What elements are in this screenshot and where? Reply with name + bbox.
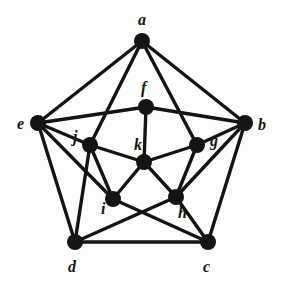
edge-g-k <box>144 145 197 162</box>
edge-a-b <box>142 41 245 123</box>
vertex-b[interactable] <box>237 115 253 131</box>
vertex-d[interactable] <box>67 234 83 250</box>
edge-g-h <box>176 145 197 197</box>
vertex-label-i: i <box>101 201 105 217</box>
edge-a-g <box>142 41 197 145</box>
vertex-label-c: c <box>203 259 210 275</box>
vertex-j[interactable] <box>82 137 98 153</box>
vertex-e[interactable] <box>30 115 46 131</box>
vertex-label-k: k <box>134 137 142 153</box>
vertex-g[interactable] <box>189 137 205 153</box>
vertex-label-d: d <box>68 259 76 275</box>
vertex-label-b: b <box>258 117 266 133</box>
vertex-f[interactable] <box>138 99 154 115</box>
edge-d-j <box>75 145 90 242</box>
vertex-h[interactable] <box>168 189 184 205</box>
vertex-k[interactable] <box>136 154 152 170</box>
vertex-label-f: f <box>141 80 146 96</box>
vertex-i[interactable] <box>105 191 121 207</box>
graph-figure: abcdefghijk <box>0 0 284 286</box>
edge-j-i <box>90 145 113 199</box>
vertex-label-g: g <box>210 133 218 149</box>
vertex-label-j: j <box>73 129 77 145</box>
graph-canvas <box>0 0 284 286</box>
vertex-a[interactable] <box>134 33 150 49</box>
vertex-label-h: h <box>178 205 187 221</box>
edge-f-k <box>144 107 146 162</box>
vertex-label-a: a <box>138 12 146 28</box>
edge-e-j <box>38 123 90 145</box>
vertex-label-e: e <box>17 116 24 132</box>
vertex-c[interactable] <box>200 234 216 250</box>
edge-a-j <box>90 41 142 145</box>
